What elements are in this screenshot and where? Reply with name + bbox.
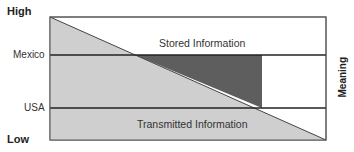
stored-information-label: Stored Information xyxy=(159,37,245,49)
transmitted-information-label: Transmitted Information xyxy=(137,118,248,130)
meaning-axis-label: Meaning xyxy=(337,58,348,98)
